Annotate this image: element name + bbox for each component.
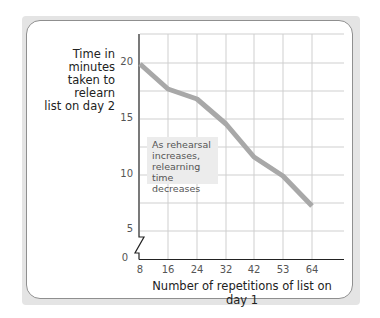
x-tick-53: 53 [271,264,295,275]
y-tick-15: 15 [113,112,133,123]
x-tick-32: 32 [214,264,238,275]
y-tick-0: 0 [108,252,128,263]
x-tick-42: 42 [242,264,266,275]
x-tick-64: 64 [300,264,324,275]
x-tick-24: 24 [185,264,209,275]
x-tick-16: 16 [156,264,180,275]
y-tick-5: 5 [113,223,133,234]
x-axis-title: Number of repetitions of list on day 1 [140,279,344,307]
annotation-box: As rehearsal increases, relearning time … [147,137,218,184]
y-tick-20: 20 [113,56,133,67]
x-tick-8: 8 [128,264,152,275]
y-axis-title: Time in minutes taken to relearn list on… [30,48,115,113]
y-tick-10: 10 [113,168,133,179]
